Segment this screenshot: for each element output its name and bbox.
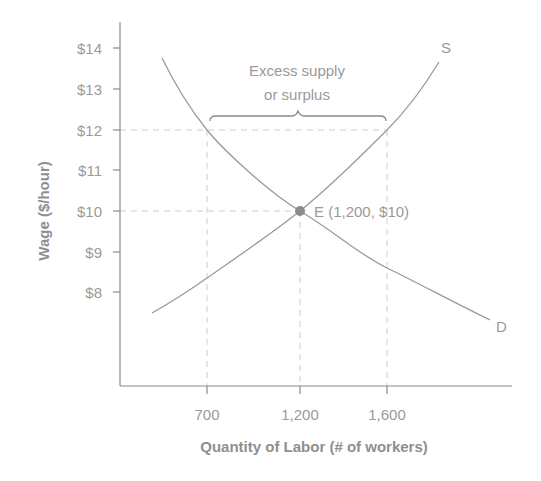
x-tick-1200: 1,200 [281, 406, 319, 423]
x-axis-ticks [207, 386, 387, 394]
surplus-label-line2: or surplus [264, 86, 330, 103]
x-tick-labels: 700 1,200 1,600 [194, 406, 405, 423]
equilibrium-point [295, 206, 305, 216]
y-tick-8: $8 [85, 284, 102, 301]
surplus-label-line1: Excess supply [249, 62, 345, 79]
demand-label: D [496, 318, 507, 335]
x-tick-700: 700 [194, 406, 219, 423]
y-axis-title: Wage ($/hour) [35, 161, 52, 260]
y-tick-labels: $14 $13 $12 $11 $10 $9 $8 [77, 40, 102, 301]
equilibrium-label: E (1,200, $10) [314, 203, 409, 220]
y-axis-ticks [113, 48, 120, 292]
labor-market-chart: $14 $13 $12 $11 $10 $9 $8 700 1,200 1,60… [0, 0, 541, 481]
x-axis-title: Quantity of Labor (# of workers) [200, 438, 428, 455]
y-tick-9: $9 [85, 244, 102, 261]
x-tick-1600: 1,600 [368, 406, 406, 423]
y-tick-11: $11 [78, 162, 102, 179]
y-tick-14: $14 [77, 40, 102, 57]
y-tick-10: $10 [77, 203, 102, 220]
y-tick-13: $13 [77, 81, 102, 98]
surplus-brace [210, 111, 386, 121]
supply-label: S [441, 39, 451, 56]
y-tick-12: $12 [77, 122, 102, 139]
